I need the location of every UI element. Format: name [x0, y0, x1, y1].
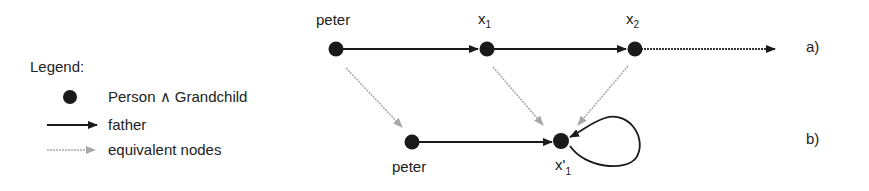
node-peter-label: peter: [316, 11, 350, 28]
node-x2-label: x2: [626, 10, 640, 30]
legend-item-person-grandchild: Person ∧ Grandchild: [108, 88, 247, 105]
equivalence-x1: [493, 67, 543, 125]
diagram-canvas: Legend: Person ∧ Grandchild father equiv…: [0, 0, 869, 191]
person-grandchild-node-icon: [63, 90, 77, 104]
equivalence-x2: [578, 66, 628, 125]
node-peter: [329, 42, 344, 57]
node-peter-b-label: peter: [392, 158, 426, 175]
equivalence-peter: [346, 68, 402, 127]
node-x1: [480, 42, 495, 57]
legend-item-father: father: [108, 116, 146, 133]
node-peter-b: [405, 135, 420, 150]
node-x1prime: [553, 133, 569, 149]
equivalence-edges: [346, 66, 628, 127]
diagram-b: peter x'1 b): [392, 117, 819, 177]
father-self-loop: [570, 117, 640, 166]
diagram-a: peter x1 x2 a): [316, 10, 819, 57]
legend-title: Legend:: [30, 58, 84, 75]
node-x1prime-label: x'1: [555, 156, 571, 177]
node-x2: [628, 42, 643, 57]
legend-item-equivalent-nodes: equivalent nodes: [108, 141, 221, 158]
diagram-b-label: b): [806, 130, 819, 147]
diagram-a-label: a): [806, 38, 819, 55]
legend: Legend: Person ∧ Grandchild father equiv…: [30, 58, 247, 158]
node-x1-label: x1: [478, 10, 492, 30]
